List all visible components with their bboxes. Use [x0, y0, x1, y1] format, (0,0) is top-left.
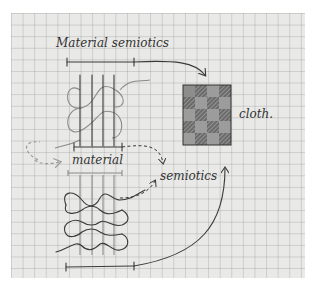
dashed-arrow-knit-to-semiotics — [120, 181, 155, 198]
material-label: material — [72, 153, 123, 167]
woven-sketch-top — [55, 75, 150, 148]
arrow-to-cloth — [134, 61, 205, 75]
dashed-arrow-top-to-semiotics — [122, 146, 163, 163]
loop-arrow — [26, 142, 60, 164]
knit-sketch-bottom — [56, 175, 145, 255]
cloth-label: cloth. — [239, 107, 273, 121]
semiotics-label: semiotics — [160, 169, 217, 183]
mid-bracket — [74, 143, 122, 151]
diagram-canvas: Material semiotics material semiotics — [0, 0, 319, 289]
cloth-grid — [183, 85, 231, 145]
bottom-bracket — [66, 262, 134, 271]
top-bracket — [67, 58, 134, 66]
title-label: Material semiotics — [55, 36, 169, 50]
